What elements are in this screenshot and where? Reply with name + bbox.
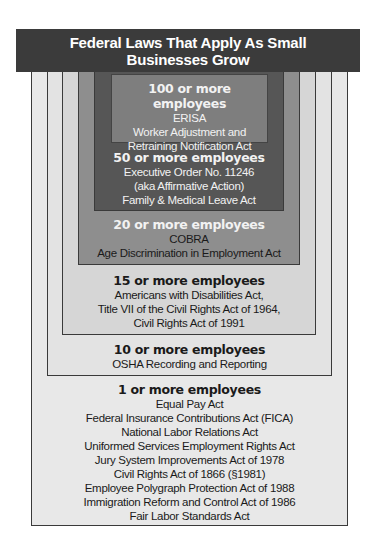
tier-1-law: Civil Rights Act of 1866 (§1981) — [32, 467, 347, 481]
tier-15-law: Title VII of the Civil Rights Act of 196… — [63, 302, 315, 316]
tier-10-law: OSHA Recording and Reporting — [48, 357, 331, 371]
tier-50-law: Family & Medical Leave Act — [95, 193, 283, 207]
tier-10-content: 10 or more employees OSHA Recording and … — [48, 342, 331, 371]
tier-1-law: National Labor Relations Act — [32, 425, 347, 439]
tier-15-threshold: 15 or more employees — [63, 273, 315, 288]
tier-100-law: Worker Adjustment and — [112, 125, 267, 139]
tier-100-box: 100 or more employees ERISA Worker Adjus… — [111, 74, 268, 143]
tier-15-content: 15 or more employees Americans with Disa… — [63, 273, 315, 330]
tier-15-law: Civil Rights Act of 1991 — [63, 316, 315, 330]
tier-15-law: Americans with Disabilities Act, — [63, 288, 315, 302]
diagram-title: Federal Laws That Apply As Small Busines… — [16, 29, 360, 72]
tier-1-law: Federal Insurance Contributions Act (FIC… — [32, 411, 347, 425]
tier-100-threshold: 100 or more employees — [112, 81, 267, 111]
tier-20-law: COBRA — [79, 232, 299, 246]
tier-10-threshold: 10 or more employees — [48, 342, 331, 357]
tier-1-law: Fair Labor Standards Act — [32, 509, 347, 523]
tier-1-law: Immigration Reform and Control Act of 19… — [32, 495, 347, 509]
tier-50-law: Executive Order No. 11246 — [95, 165, 283, 179]
tier-100-content: 100 or more employees ERISA Worker Adjus… — [112, 81, 267, 153]
tier-1-law: Employee Polygraph Protection Act of 198… — [32, 481, 347, 495]
tier-20-content: 20 or more employees COBRA Age Discrimin… — [79, 217, 299, 260]
tier-50-law: (aka Affirmative Action) — [95, 179, 283, 193]
tier-20-law: Age Discrimination in Employment Act — [79, 246, 299, 260]
tier-1-content: 1 or more employees Equal Pay Act Federa… — [32, 382, 347, 523]
tier-100-law: Retraining Notification Act — [112, 139, 267, 153]
tier-1-law: Equal Pay Act — [32, 397, 347, 411]
tier-1-law: Uniformed Services Employment Rights Act — [32, 439, 347, 453]
tier-20-threshold: 20 or more employees — [79, 217, 299, 232]
tier-1-threshold: 1 or more employees — [32, 382, 347, 397]
tier-50-content: 50 or more employees Executive Order No.… — [95, 150, 283, 207]
tier-1-law: Jury System Improvements Act of 1978 — [32, 453, 347, 467]
tier-100-law: ERISA — [112, 111, 267, 125]
